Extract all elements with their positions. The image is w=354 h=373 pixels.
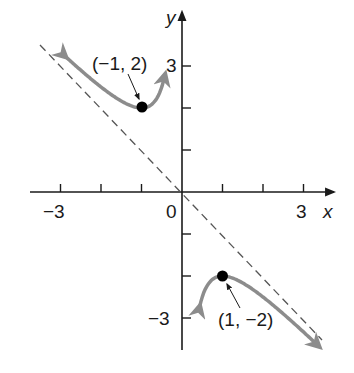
y-tick-label-neg3: −3 bbox=[148, 308, 170, 329]
x-tick-label-pos3: 3 bbox=[296, 201, 307, 222]
x-tick-label-neg3: −3 bbox=[43, 201, 65, 222]
graph-canvas: −3 0 3 x y 3 −3 (−1, 2) (1, −2) bbox=[0, 0, 354, 373]
x-axis-label: x bbox=[322, 201, 334, 222]
y-axis-label: y bbox=[164, 7, 177, 28]
annotation-arrow-max bbox=[227, 284, 240, 308]
x-tick-label-zero: 0 bbox=[166, 201, 177, 222]
y-tick-label-pos3: 3 bbox=[166, 55, 177, 76]
local-min-point bbox=[137, 102, 148, 113]
point-label-max: (1, −2) bbox=[218, 309, 273, 330]
point-label-min: (−1, 2) bbox=[92, 53, 147, 74]
local-max-point bbox=[217, 271, 228, 282]
annotation-arrow-min bbox=[128, 74, 139, 99]
